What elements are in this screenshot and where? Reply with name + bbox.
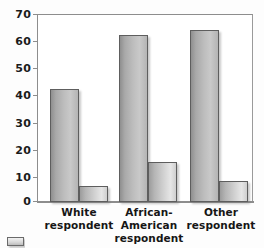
- y-tick-label-40: 40: [0, 90, 31, 101]
- x-label-other-line2: respondent: [185, 219, 257, 232]
- y-tick-mark-40: [33, 95, 37, 96]
- y-tick-label-10: 10: [0, 172, 31, 183]
- y-tick-label-0: 0: [0, 196, 31, 207]
- x-label-other: Other respondent: [185, 206, 257, 232]
- bar-chart: 70 60 50 40 30 20 10 0 White respondent …: [0, 0, 264, 248]
- legend: [7, 237, 25, 248]
- y-tick-mark-70: [33, 14, 37, 15]
- y-tick-label-70: 70: [0, 9, 31, 20]
- y-tick-label-30: 30: [0, 118, 31, 129]
- x-label-african-american: African-American respondent: [110, 206, 188, 245]
- y-tick-mark-20: [33, 150, 37, 151]
- bar-african-american-series-1: [119, 35, 148, 202]
- bar-other-series-1: [190, 30, 219, 202]
- y-tick-mark-30: [33, 123, 37, 124]
- y-tick-label-20: 20: [0, 145, 31, 156]
- y-tick-label-50: 50: [0, 63, 31, 74]
- y-tick-mark-0: [33, 201, 37, 202]
- x-label-african-american-line1: African-American: [110, 206, 188, 232]
- legend-swatch-series-1: [7, 237, 24, 246]
- x-label-white-line2: respondent: [44, 219, 114, 232]
- y-tick-label-60: 60: [0, 36, 31, 47]
- bar-other-series-2: [219, 181, 248, 202]
- x-label-african-american-line2: respondent: [110, 232, 188, 245]
- x-label-white-line1: White: [44, 206, 114, 219]
- bar-white-series-2: [79, 186, 108, 202]
- x-label-white: White respondent: [44, 206, 114, 232]
- bar-white-series-1: [50, 89, 79, 202]
- bar-african-american-series-2: [148, 162, 177, 202]
- y-tick-mark-60: [33, 41, 37, 42]
- y-tick-mark-50: [33, 68, 37, 69]
- y-tick-mark-10: [33, 177, 37, 178]
- x-label-other-line1: Other: [185, 206, 257, 219]
